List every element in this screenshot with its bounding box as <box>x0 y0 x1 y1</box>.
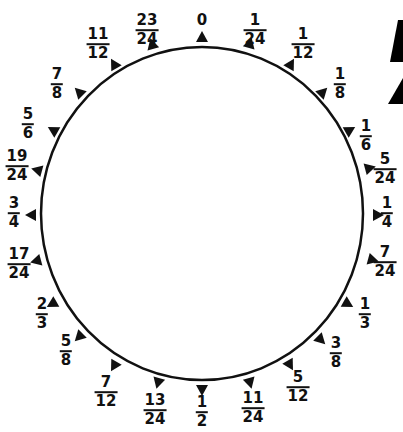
fraction-denominator: 12 <box>95 394 118 409</box>
fraction-denominator: 2 <box>196 414 208 429</box>
fraction-label: 16 <box>360 119 372 153</box>
fraction-denominator: 24 <box>136 32 159 47</box>
fraction-denominator: 6 <box>22 126 34 141</box>
fraction-denominator: 12 <box>287 389 310 404</box>
fraction-numerator: 5 <box>379 152 391 167</box>
fraction-label: 56 <box>22 107 34 141</box>
fraction-label: 14 <box>381 196 393 230</box>
fraction-numerator: 17 <box>8 247 31 262</box>
fraction-label: 1924 <box>6 149 29 183</box>
fraction-numerator: 11 <box>87 27 110 42</box>
fraction-label: 13 <box>359 297 371 331</box>
fraction-denominator: 3 <box>36 316 48 331</box>
tick-marker-icon <box>151 377 165 391</box>
fraction-label: 112 <box>292 27 315 61</box>
cropped-letter-shape <box>388 20 403 104</box>
fraction-denominator: 3 <box>359 316 371 331</box>
fraction-numerator: 0 <box>196 13 208 28</box>
fraction-label: 38 <box>330 336 342 370</box>
tick-marker-icon <box>30 163 44 177</box>
tick-marker-icon <box>25 209 36 221</box>
fraction-denominator: 24 <box>242 410 265 425</box>
fraction-numerator: 1 <box>249 13 261 28</box>
fraction-numerator: 5 <box>22 107 34 122</box>
fraction-numerator: 11 <box>242 391 265 406</box>
fraction-label: 12 <box>196 395 208 429</box>
fraction-numerator: 13 <box>144 393 167 408</box>
fraction-label: 124 <box>244 13 267 47</box>
fraction-circle-diagram: 0124112181652414724133851211241213247125… <box>0 0 403 432</box>
fraction-label: 1324 <box>144 393 167 427</box>
fraction-denominator: 6 <box>360 138 372 153</box>
fraction-numerator: 5 <box>60 334 72 349</box>
tick-marker-icon <box>29 254 43 268</box>
tick-marker-icon <box>71 329 87 345</box>
fraction-denominator: 12 <box>87 46 110 61</box>
fraction-numerator: 1 <box>297 27 309 42</box>
fraction-numerator: 1 <box>359 297 371 312</box>
fraction-denominator: 8 <box>60 353 72 368</box>
fraction-label: 78 <box>51 67 63 101</box>
tick-marker-icon <box>71 84 87 100</box>
fraction-numerator: 3 <box>8 196 20 211</box>
fraction-label: 1724 <box>8 247 31 281</box>
tick-marker-icon <box>106 359 122 375</box>
fraction-numerator: 1 <box>334 67 346 82</box>
tick-marker-icon <box>45 122 61 138</box>
tick-marker-icon <box>196 31 208 42</box>
tick-marker-icon <box>341 296 357 312</box>
fraction-numerator: 5 <box>292 370 304 385</box>
fraction-numerator: 1 <box>360 119 372 134</box>
fraction-label: 58 <box>60 334 72 368</box>
circle-outline <box>41 47 363 380</box>
fraction-numerator: 7 <box>51 67 63 82</box>
fraction-denominator: 24 <box>244 32 267 47</box>
fraction-denominator: 24 <box>374 171 397 186</box>
fraction-numerator: 7 <box>379 245 391 260</box>
fraction-denominator: 24 <box>144 412 167 427</box>
fraction-label: 0 <box>196 13 208 28</box>
fraction-label: 34 <box>8 196 20 230</box>
fraction-denominator: 8 <box>330 355 342 370</box>
fraction-denominator: 24 <box>374 264 397 279</box>
fraction-label: 1112 <box>87 27 110 61</box>
fraction-denominator: 8 <box>334 86 346 101</box>
fraction-label: 524 <box>374 152 397 186</box>
fraction-numerator: 3 <box>330 336 342 351</box>
fraction-denominator: 12 <box>292 46 315 61</box>
fraction-denominator: 4 <box>8 215 20 230</box>
fraction-label: 724 <box>374 245 397 279</box>
fraction-label: 2324 <box>136 13 159 47</box>
fraction-label: 1124 <box>242 391 265 425</box>
fraction-denominator: 24 <box>8 266 31 281</box>
fraction-denominator: 4 <box>381 215 393 230</box>
fraction-label: 712 <box>95 375 118 409</box>
fraction-numerator: 2 <box>36 297 48 312</box>
fraction-numerator: 1 <box>381 196 393 211</box>
fraction-numerator: 19 <box>6 149 29 164</box>
fraction-label: 18 <box>334 67 346 101</box>
fraction-numerator: 7 <box>100 375 112 390</box>
fraction-label: 23 <box>36 297 48 331</box>
fraction-numerator: 1 <box>196 395 208 410</box>
fraction-denominator: 24 <box>6 168 29 183</box>
tick-marker-icon <box>313 332 329 348</box>
fraction-numerator: 23 <box>136 13 159 28</box>
fraction-label: 512 <box>287 370 310 404</box>
fraction-denominator: 8 <box>51 86 63 101</box>
